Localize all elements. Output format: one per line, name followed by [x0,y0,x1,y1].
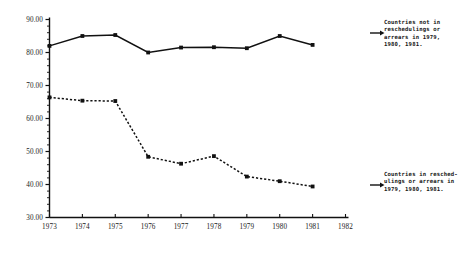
x-tick-label: 1976 [141,223,156,231]
x-tick-label: 1978 [207,223,222,231]
data-point-marker [278,34,282,38]
x-tick-label: 1977 [174,223,189,231]
y-tick-label: 70.00 [26,82,43,90]
series-line-1 [50,97,313,186]
data-point-marker [311,185,315,189]
y-axis-ticks: 90.0080.0070.0060.0050.0040.0030.00 [26,16,49,222]
x-tick-label: 1975 [108,223,123,231]
y-tick-label: 60.00 [26,115,43,123]
data-point-marker [245,46,249,50]
x-axis-ticks: 1973197419751976197719781979198019811982 [42,214,353,231]
x-tick-label: 1982 [338,223,353,231]
x-tick-label: 1973 [42,223,57,231]
data-point-marker [146,51,150,55]
data-point-marker [48,44,52,48]
annotation-pointer [370,30,385,35]
y-tick-label: 80.00 [26,49,43,57]
data-point-marker [245,175,249,179]
x-tick-label: 1979 [239,223,254,231]
x-tick-label: 1980 [272,223,287,231]
annotation-pointer [370,182,385,187]
y-tick-label: 50.00 [26,148,43,156]
line-chart: 90.0080.0070.0060.0050.0040.0030.00 1973… [0,0,472,263]
data-point-marker [113,33,117,37]
data-series [48,33,315,188]
data-point-marker [80,34,84,38]
data-point-marker [311,43,315,47]
data-point-marker [80,99,84,103]
y-tick-label: 40.00 [26,181,43,189]
x-tick-label: 1981 [305,223,320,231]
data-point-marker [179,46,183,50]
data-point-marker [48,95,52,99]
data-point-marker [212,45,216,49]
x-tick-label: 1974 [75,223,90,231]
annotation-pointers [370,30,385,187]
annotation-countries-not-in-reschedulings: Countries not in reschedulings or arrear… [384,19,440,49]
data-point-marker [146,155,150,159]
data-point-marker [278,179,282,183]
series-line-0 [50,35,313,52]
data-point-marker [212,154,216,158]
data-point-marker [113,99,117,103]
y-tick-label: 90.00 [26,16,43,24]
annotation-countries-in-reschedulings: Countries in resched- ulings or arrears … [384,171,458,193]
data-point-marker [179,162,183,166]
y-tick-label: 30.00 [26,214,43,222]
